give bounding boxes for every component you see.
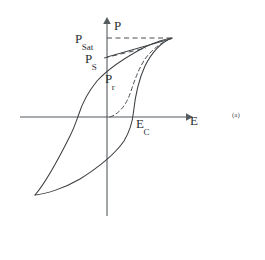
hysteresis-figure: P E PSat PS Pr EC (a): [0, 0, 265, 260]
e-c-label-sub: C: [143, 127, 149, 137]
p-s-label-sub: S: [92, 62, 97, 72]
saturation-tangent-line: [107, 39, 172, 58]
e-axis-label: E: [190, 112, 198, 128]
p-axis-label: P: [114, 17, 121, 33]
panel-label: (a): [232, 112, 240, 119]
e-c-label: EC: [136, 115, 150, 134]
p-r-label-sub: r: [112, 82, 115, 92]
e-axis-label-base: E: [190, 113, 198, 128]
hysteresis-plot-canvas: [0, 0, 265, 260]
p-sat-label: PSat: [75, 30, 94, 49]
p-r-label: Pr: [105, 70, 115, 89]
p-s-label: PS: [85, 50, 97, 69]
p-axis-label-base: P: [114, 18, 121, 33]
